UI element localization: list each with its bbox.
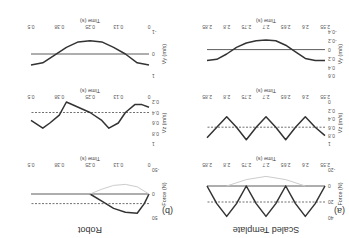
y-tick-label: 0.8 <box>328 133 335 139</box>
x-tick-label: 2.7 <box>262 24 269 30</box>
x-axis-label: Time (s) <box>256 88 276 94</box>
y-tick-label: 40 <box>328 215 334 221</box>
y-tick-label: -0.4 <box>328 29 337 35</box>
y-tick-label: 1 <box>152 141 155 147</box>
series-line-vz <box>207 117 325 140</box>
y-axis-label: Vy (m/s) <box>161 44 167 64</box>
y-tick-label: -20 <box>328 167 335 173</box>
series-line-vy <box>207 40 325 61</box>
x-axis-label: Time (s) <box>256 156 276 162</box>
x-tick-label: 0.25 <box>85 24 95 30</box>
y-tick-label: 1 <box>328 141 331 147</box>
x-tick-label: 2.8 <box>223 24 230 30</box>
y-tick-label: 1 <box>152 73 155 79</box>
x-tick-label: 2.75 <box>241 24 251 30</box>
y-tick-label: 0.6 <box>328 73 335 79</box>
x-tick-label: 0.5 <box>27 24 34 30</box>
x-tick-label: 2.75 <box>241 94 251 100</box>
x-tick-label: 2.65 <box>281 94 291 100</box>
y-tick-label: 0 <box>328 183 331 189</box>
x-axis-label: Time (s) <box>80 156 100 162</box>
x-tick-label: 2.6 <box>302 24 309 30</box>
y-tick-label: 0.4 <box>328 116 335 122</box>
series-line-vz <box>31 102 149 128</box>
series-line-force-light <box>90 184 149 194</box>
y-tick-label: -1 <box>152 29 157 35</box>
y-tick-label: 0.4 <box>328 65 335 71</box>
x-tick-label: 2.55 <box>320 94 330 100</box>
x-axis-label: Time (s) <box>80 88 100 94</box>
x-axis-label: Time (s) <box>80 18 100 24</box>
x-tick-label: 0.5 <box>27 162 34 168</box>
x-tick-label: 0.13 <box>113 24 123 30</box>
figure: Scaled TemplateRobot(a)(b)40200-20Force … <box>0 0 349 238</box>
x-tick-label: 2.85 <box>202 162 212 168</box>
x-tick-label: 0.25 <box>85 162 95 168</box>
x-tick-label: 0 <box>147 162 150 168</box>
chart-canvas: Scaled TemplateRobot(a)(b)40200-20Force … <box>0 0 349 238</box>
panel-label-b: (b) <box>162 206 173 216</box>
y-tick-label: 0.8 <box>152 131 159 137</box>
x-tick-label: 2.6 <box>302 94 309 100</box>
x-tick-label: 2.55 <box>320 162 330 168</box>
x-tick-label: 2.75 <box>241 162 251 168</box>
y-axis-label: Vz (m/s) <box>337 113 343 134</box>
y-tick-label: 0 <box>152 51 155 57</box>
x-tick-label: 2.6 <box>302 162 309 168</box>
x-tick-label: 2.85 <box>202 24 212 30</box>
x-tick-label: 0.38 <box>54 24 64 30</box>
y-tick-label: 20 <box>328 199 334 205</box>
series-line-force-light <box>227 176 306 186</box>
series-line-vy <box>31 41 149 65</box>
x-tick-label: 0 <box>147 94 150 100</box>
y-tick-label: 0.6 <box>328 125 335 131</box>
y-tick-label: -50 <box>152 167 159 173</box>
x-tick-label: 0 <box>147 24 150 30</box>
x-tick-label: 2.55 <box>320 24 330 30</box>
x-tick-label: 0.25 <box>85 94 95 100</box>
x-tick-label: 2.8 <box>223 94 230 100</box>
y-tick-label: 0.2 <box>328 56 335 62</box>
y-axis-label: Force (N) <box>161 182 167 205</box>
x-tick-label: 0.5 <box>27 94 34 100</box>
x-tick-label: 2.8 <box>223 162 230 168</box>
x-tick-label: 0.38 <box>54 162 64 168</box>
panel-title-b: Robot <box>78 225 103 235</box>
y-tick-label: 0.4 <box>152 110 159 116</box>
x-tick-label: 2.7 <box>262 94 269 100</box>
x-tick-label: 2.85 <box>202 94 212 100</box>
y-tick-label: 0 <box>328 99 331 105</box>
y-tick-label: 0.2 <box>328 108 335 114</box>
y-tick-label: 0 <box>328 47 331 53</box>
x-tick-label: 0.13 <box>113 94 123 100</box>
y-axis-label: Force (N) <box>337 182 343 205</box>
x-tick-label: 0.13 <box>113 162 123 168</box>
y-tick-label: 0 <box>152 191 155 197</box>
series-line-force <box>207 186 325 216</box>
y-axis-label: Vz (m/s) <box>161 113 167 134</box>
y-tick-label: 0.2 <box>152 99 159 105</box>
x-axis-label: Time (s) <box>256 18 276 24</box>
panel-title-a: Scaled Template <box>233 225 299 235</box>
x-tick-label: 2.65 <box>281 24 291 30</box>
x-tick-label: 2.7 <box>262 162 269 168</box>
y-tick-label: 50 <box>152 215 158 221</box>
x-tick-label: 2.65 <box>281 162 291 168</box>
y-tick-label: 0.6 <box>152 120 159 126</box>
y-axis-label: Vy (m/s) <box>337 44 343 64</box>
x-tick-label: 0.38 <box>54 94 64 100</box>
y-tick-label: -0.2 <box>328 38 337 44</box>
panel-label-a: (a) <box>334 206 345 216</box>
